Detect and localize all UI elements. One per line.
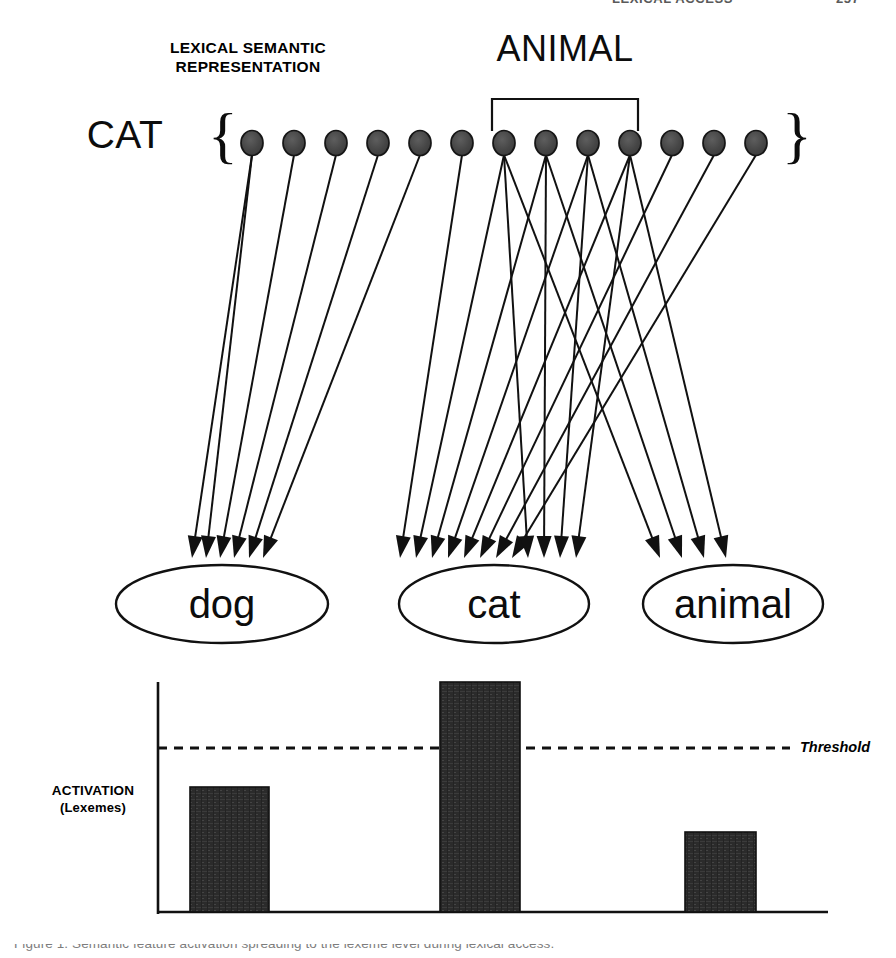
connection-arrowhead bbox=[554, 536, 569, 558]
connection-arrowhead bbox=[201, 535, 216, 558]
connection-arrowhead bbox=[480, 535, 496, 558]
connection-arrowhead bbox=[448, 535, 462, 558]
connection-arrowhead bbox=[496, 535, 513, 558]
activation-bar-cat[interactable] bbox=[440, 682, 520, 912]
activation-bar-chart bbox=[158, 682, 828, 914]
activation-bar-dog[interactable] bbox=[190, 787, 269, 912]
connection-line bbox=[544, 155, 546, 539]
connection-arrowhead bbox=[714, 535, 729, 558]
connection-line bbox=[522, 155, 756, 542]
lexeme-label-dog: dog bbox=[189, 582, 256, 626]
activation-bar-animal[interactable] bbox=[685, 832, 756, 912]
connection-line bbox=[208, 155, 252, 539]
semantic-feature-node bbox=[703, 131, 725, 156]
lexeme-label-animal: animal bbox=[674, 582, 792, 626]
connection-arrowhead bbox=[188, 535, 203, 558]
connection-line bbox=[454, 155, 588, 540]
connection-line bbox=[195, 155, 252, 539]
connection-arrowhead bbox=[571, 535, 586, 558]
semantic-feature-node bbox=[367, 131, 389, 156]
connection-arrowhead bbox=[668, 535, 682, 558]
connection-arrowhead bbox=[431, 535, 445, 558]
semantic-feature-node bbox=[409, 131, 431, 156]
connection-arrowhead bbox=[217, 535, 232, 558]
feature-to-lexeme-connections bbox=[188, 155, 756, 558]
connection-line bbox=[223, 155, 294, 539]
connection-arrowhead bbox=[396, 535, 411, 558]
connection-arrowhead bbox=[464, 535, 479, 558]
semantic-feature-node bbox=[493, 131, 515, 156]
animal-feature-bracket bbox=[492, 99, 638, 131]
semantic-feature-node bbox=[283, 131, 305, 156]
figure-canvas: dogcatanimal bbox=[0, 0, 896, 958]
semantic-feature-node bbox=[619, 131, 641, 156]
connection-arrowhead bbox=[263, 535, 278, 558]
semantic-feature-node bbox=[325, 131, 347, 156]
connection-line bbox=[471, 155, 630, 540]
connection-arrowhead bbox=[232, 535, 247, 558]
semantic-feature-node bbox=[451, 131, 473, 156]
connection-line bbox=[255, 155, 378, 540]
connection-line bbox=[270, 155, 420, 540]
figure-caption-text: Figure 1. Semantic feature activation sp… bbox=[14, 944, 554, 951]
figure-caption: Figure 1. Semantic feature activation sp… bbox=[14, 944, 882, 958]
semantic-feature-node bbox=[535, 131, 557, 156]
lexeme-label-cat: cat bbox=[467, 582, 520, 626]
semantic-feature-node bbox=[577, 131, 599, 156]
connection-arrowhead bbox=[249, 535, 263, 558]
connection-arrowhead bbox=[413, 535, 428, 558]
animal-bracket-path bbox=[492, 99, 638, 131]
figure-page: LEXICAL ACCESS 257 LEXICAL SEMANTIC REPR… bbox=[0, 0, 896, 958]
connection-arrowhead bbox=[537, 536, 552, 558]
semantic-feature-node bbox=[241, 131, 263, 156]
semantic-feature-node bbox=[745, 131, 767, 156]
semantic-feature-node bbox=[661, 131, 683, 156]
connection-line bbox=[504, 155, 653, 540]
semantic-feature-nodes bbox=[241, 131, 767, 156]
connection-arrowhead bbox=[691, 535, 705, 558]
connection-line bbox=[239, 155, 336, 540]
lexeme-nodes: dogcatanimal bbox=[116, 565, 823, 643]
connection-arrowhead bbox=[645, 535, 660, 558]
